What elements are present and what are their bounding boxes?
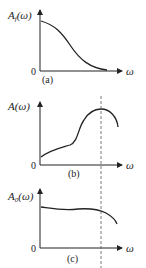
x-axis-label: ω (126, 159, 134, 171)
y-axis-label: Af(ω) (7, 9, 32, 23)
panel-b: A(ω) 0 ω (b) (7, 100, 134, 180)
caption: (b) (68, 168, 80, 180)
caption: (c) (67, 253, 78, 265)
figure-canvas: Af(ω) 0 ω (a) A(ω) 0 ω (b) A0(ω) 0 ω (c) (0, 0, 146, 268)
origin-label: 0 (31, 243, 36, 254)
panel-c: A0(ω) 0 ω (c) (7, 189, 134, 265)
origin-label: 0 (31, 66, 36, 77)
amplitude-curve (41, 109, 118, 157)
y-axis-label: A0(ω) (7, 190, 34, 204)
x-axis-label: ω (126, 242, 134, 254)
x-axis-label: ω (126, 65, 134, 77)
panel-a: Af(ω) 0 ω (a) (7, 9, 134, 86)
y-axis-label: A(ω) (7, 100, 30, 113)
caption: (a) (42, 74, 53, 86)
amplitude-curve (41, 207, 117, 224)
origin-label: 0 (31, 160, 36, 171)
amplitude-curve (41, 21, 107, 70)
